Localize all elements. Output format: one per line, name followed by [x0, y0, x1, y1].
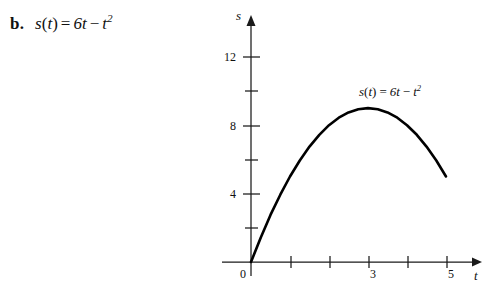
x-tick-label-5: 5: [440, 267, 454, 282]
curve-minus: −: [400, 84, 413, 99]
y-tick-label-4: 4: [214, 187, 236, 202]
y-tick-label-8: 8: [214, 119, 236, 134]
curve-term2-exponent: 2: [417, 83, 421, 93]
curve-equals: =: [376, 84, 389, 99]
y-axis-label: s: [236, 8, 241, 24]
origin-label: 0: [232, 267, 246, 282]
y-tick-label-12: 12: [214, 50, 236, 65]
figure-page: b. s(t)=6t−t2: [0, 0, 498, 298]
y-axis-arrowhead: [247, 15, 256, 26]
curve-equation-label: s(t)=6t−t2: [359, 84, 421, 100]
parabola-curve: [251, 108, 446, 262]
x-axis-label: t: [474, 268, 478, 284]
x-axis-arrowhead: [472, 258, 482, 267]
x-tick-label-3: 3: [362, 267, 376, 282]
graph-figure: 12 8 4 0 3 5 s t s(t)=6t−t2: [0, 0, 498, 298]
